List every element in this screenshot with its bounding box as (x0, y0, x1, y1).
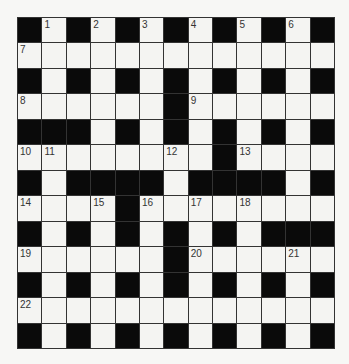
answer-cell[interactable] (189, 273, 212, 297)
answer-cell[interactable]: 7 (18, 43, 41, 67)
answer-cell[interactable] (262, 94, 285, 118)
answer-cell[interactable] (213, 298, 236, 322)
answer-cell[interactable] (116, 145, 139, 169)
answer-cell[interactable] (116, 43, 139, 67)
answer-cell[interactable] (140, 247, 163, 271)
answer-cell[interactable] (286, 43, 309, 67)
answer-cell[interactable]: 17 (189, 196, 212, 220)
answer-cell[interactable] (42, 273, 65, 297)
answer-cell[interactable] (311, 247, 334, 271)
answer-cell[interactable]: 21 (286, 247, 309, 271)
answer-cell[interactable] (42, 298, 65, 322)
answer-cell[interactable] (311, 94, 334, 118)
answer-cell[interactable] (189, 120, 212, 144)
answer-cell[interactable] (189, 222, 212, 246)
answer-cell[interactable] (286, 69, 309, 93)
answer-cell[interactable] (311, 145, 334, 169)
answer-cell[interactable] (262, 43, 285, 67)
answer-cell[interactable] (311, 43, 334, 67)
answer-cell[interactable]: 22 (18, 298, 41, 322)
answer-cell[interactable] (91, 247, 114, 271)
answer-cell[interactable]: 11 (42, 145, 65, 169)
answer-cell[interactable] (91, 69, 114, 93)
answer-cell[interactable] (67, 94, 90, 118)
answer-cell[interactable] (42, 43, 65, 67)
answer-cell[interactable] (140, 120, 163, 144)
answer-cell[interactable] (42, 196, 65, 220)
answer-cell[interactable] (140, 222, 163, 246)
answer-cell[interactable] (237, 247, 260, 271)
answer-cell[interactable]: 12 (164, 145, 187, 169)
answer-cell[interactable] (91, 298, 114, 322)
answer-cell[interactable] (213, 196, 236, 220)
answer-cell[interactable]: 15 (91, 196, 114, 220)
answer-cell[interactable] (237, 69, 260, 93)
answer-cell[interactable] (237, 222, 260, 246)
answer-cell[interactable]: 16 (140, 196, 163, 220)
answer-cell[interactable] (237, 43, 260, 67)
answer-cell[interactable] (189, 298, 212, 322)
answer-cell[interactable] (67, 145, 90, 169)
answer-cell[interactable]: 14 (18, 196, 41, 220)
answer-cell[interactable] (91, 145, 114, 169)
answer-cell[interactable] (213, 43, 236, 67)
answer-cell[interactable] (116, 94, 139, 118)
answer-cell[interactable]: 3 (140, 18, 163, 42)
answer-cell[interactable] (42, 324, 65, 348)
answer-cell[interactable] (164, 298, 187, 322)
answer-cell[interactable] (67, 196, 90, 220)
answer-cell[interactable] (140, 43, 163, 67)
answer-cell[interactable] (140, 145, 163, 169)
answer-cell[interactable]: 10 (18, 145, 41, 169)
answer-cell[interactable] (91, 120, 114, 144)
answer-cell[interactable] (42, 171, 65, 195)
answer-cell[interactable] (116, 298, 139, 322)
answer-cell[interactable]: 9 (189, 94, 212, 118)
answer-cell[interactable] (67, 247, 90, 271)
answer-cell[interactable]: 5 (237, 18, 260, 42)
answer-cell[interactable] (237, 94, 260, 118)
answer-cell[interactable] (286, 324, 309, 348)
answer-cell[interactable] (286, 171, 309, 195)
answer-cell[interactable]: 20 (189, 247, 212, 271)
answer-cell[interactable] (67, 43, 90, 67)
answer-cell[interactable] (42, 69, 65, 93)
answer-cell[interactable] (213, 247, 236, 271)
answer-cell[interactable] (189, 145, 212, 169)
answer-cell[interactable] (140, 298, 163, 322)
answer-cell[interactable] (311, 298, 334, 322)
answer-cell[interactable]: 18 (237, 196, 260, 220)
answer-cell[interactable]: 1 (42, 18, 65, 42)
answer-cell[interactable] (237, 324, 260, 348)
answer-cell[interactable] (91, 94, 114, 118)
answer-cell[interactable] (262, 247, 285, 271)
answer-cell[interactable] (91, 43, 114, 67)
answer-cell[interactable] (140, 273, 163, 297)
answer-cell[interactable] (164, 43, 187, 67)
answer-cell[interactable] (91, 222, 114, 246)
answer-cell[interactable] (164, 171, 187, 195)
answer-cell[interactable] (140, 324, 163, 348)
answer-cell[interactable] (262, 298, 285, 322)
answer-cell[interactable] (311, 196, 334, 220)
answer-cell[interactable] (164, 196, 187, 220)
answer-cell[interactable] (262, 196, 285, 220)
answer-cell[interactable]: 4 (189, 18, 212, 42)
answer-cell[interactable] (140, 94, 163, 118)
answer-cell[interactable] (286, 273, 309, 297)
answer-cell[interactable] (189, 324, 212, 348)
answer-cell[interactable] (213, 94, 236, 118)
answer-cell[interactable] (237, 273, 260, 297)
answer-cell[interactable]: 2 (91, 18, 114, 42)
answer-cell[interactable] (286, 196, 309, 220)
answer-cell[interactable] (189, 43, 212, 67)
answer-cell[interactable] (42, 247, 65, 271)
answer-cell[interactable] (237, 120, 260, 144)
answer-cell[interactable] (91, 324, 114, 348)
answer-cell[interactable] (67, 298, 90, 322)
answer-cell[interactable] (140, 69, 163, 93)
answer-cell[interactable] (286, 94, 309, 118)
answer-cell[interactable] (286, 145, 309, 169)
answer-cell[interactable] (189, 69, 212, 93)
answer-cell[interactable] (116, 247, 139, 271)
